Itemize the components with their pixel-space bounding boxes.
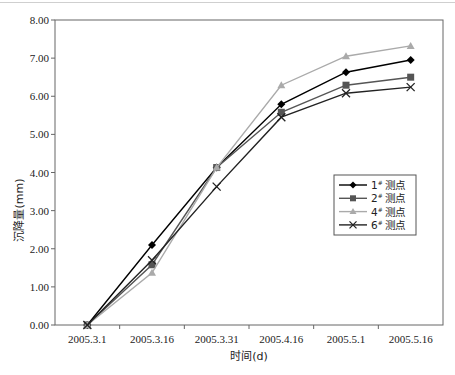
- square-marker-icon: [350, 195, 356, 201]
- x-tick-label: 2005.5.1: [327, 333, 366, 345]
- plot-area: [55, 20, 443, 325]
- x-tick-label: 2005.4.16: [259, 333, 304, 345]
- legend-label: 4#测点: [371, 206, 405, 218]
- square-marker-icon: [407, 74, 414, 81]
- triangle-marker-icon: [148, 269, 156, 276]
- y-tick-label: 0.00: [30, 319, 50, 331]
- y-tick-label: 6.00: [30, 90, 50, 102]
- y-axis-title: 沉降量(mm): [12, 178, 26, 241]
- y-tick-label: 2.00: [30, 243, 50, 255]
- legend-label: 6#测点: [371, 219, 405, 231]
- x-axis: 2005.3.12005.3.162005.3.312005.4.162005.…: [68, 325, 433, 345]
- diamond-marker-icon: [342, 68, 350, 76]
- triangle-marker-icon: [407, 42, 415, 49]
- x-marker-icon: [213, 183, 221, 191]
- x-tick-label: 2005.3.1: [68, 333, 107, 345]
- legend-label: 1#测点: [371, 179, 405, 191]
- x-axis-title: 时间(d): [230, 350, 268, 363]
- y-tick-label: 1.00: [30, 281, 50, 293]
- legend: 1#测点2#测点4#测点6#测点: [334, 175, 416, 235]
- y-tick-label: 3.00: [30, 205, 50, 217]
- x-tick-label: 2005.5.16: [389, 333, 434, 345]
- y-tick-label: 4.00: [30, 167, 50, 179]
- legend-label: 2#测点: [371, 192, 405, 204]
- y-tick-label: 8.00: [30, 14, 50, 26]
- x-tick-label: 2005.3.31: [195, 333, 239, 345]
- x-tick-label: 2005.3.16: [130, 333, 175, 345]
- y-tick-label: 5.00: [30, 128, 50, 140]
- square-marker-icon: [343, 82, 350, 89]
- y-axis: 0.001.002.003.004.005.006.007.008.00: [30, 14, 55, 331]
- settlement-line-chart: 0.001.002.003.004.005.006.007.008.00 200…: [0, 0, 455, 375]
- diamond-marker-icon: [407, 56, 415, 64]
- y-tick-label: 7.00: [30, 52, 50, 64]
